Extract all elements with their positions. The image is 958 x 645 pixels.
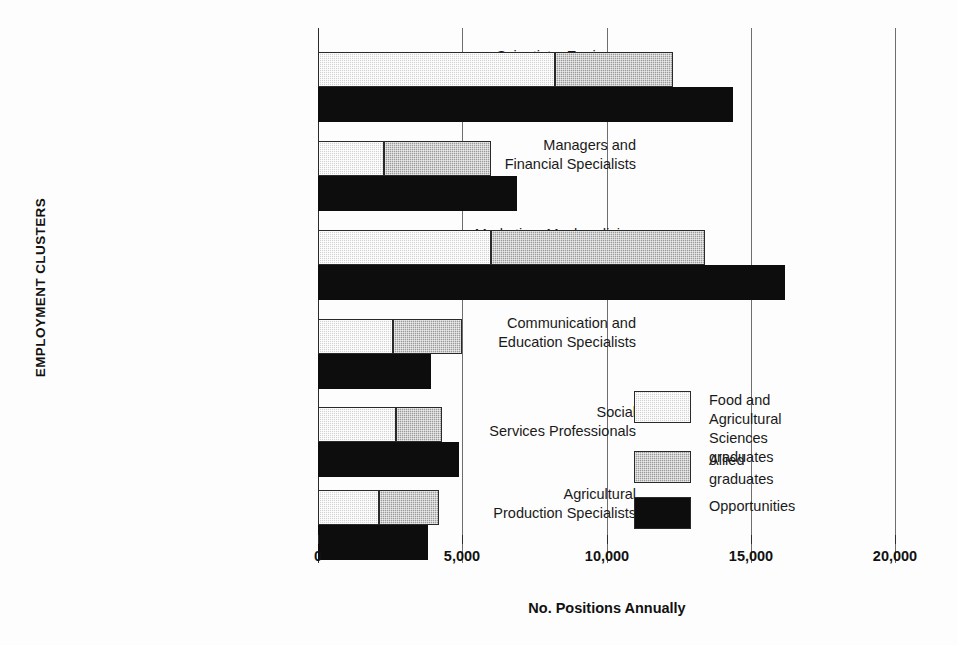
legend-item-opportunities: Opportunities (634, 497, 795, 529)
x-axis-title: No. Positions Annually (318, 600, 896, 616)
xticklabel-15000: 15,000 (706, 548, 796, 564)
legend-swatch-allied-icon (634, 451, 691, 483)
bar-opportunities (318, 176, 517, 211)
y-axis-title: EMPLOYMENT CLUSTERS (33, 168, 48, 408)
bar-segment-allied (491, 230, 704, 265)
xtick-15000 (751, 535, 752, 544)
bar-opportunities (318, 265, 785, 300)
stacked-graduates-bar (318, 52, 673, 87)
xticklabel-5000: 5,000 (417, 548, 507, 564)
bar-segment-food-sciences (318, 141, 384, 176)
stacked-graduates-bar (318, 407, 442, 442)
xticklabel-20000: 20,000 (850, 548, 940, 564)
bar-opportunities (318, 87, 733, 122)
bar-opportunities (318, 354, 431, 389)
xtick-10000 (607, 535, 608, 544)
stacked-graduates-bar (318, 230, 705, 265)
bar-segment-food-sciences (318, 490, 379, 525)
xtick-5000 (462, 535, 463, 544)
chart-page: EMPLOYMENT CLUSTERS Scientists, Engineer… (0, 0, 958, 645)
bar-segment-food-sciences (318, 319, 393, 354)
bar-segment-allied (393, 319, 462, 354)
bar-segment-food-sciences (318, 52, 555, 87)
bar-segment-allied (396, 407, 442, 442)
stacked-graduates-bar (318, 319, 462, 354)
gridline-20000 (895, 28, 896, 563)
bar-segment-food-sciences (318, 230, 491, 265)
stacked-graduates-bar (318, 490, 439, 525)
legend-label-opportunities: Opportunities (709, 497, 795, 516)
bar-opportunities (318, 442, 459, 477)
stacked-graduates-bar (318, 141, 491, 176)
legend-swatch-food-icon (634, 391, 691, 423)
xticklabel-10000: 10,000 (562, 548, 652, 564)
legend-label-allied: Allied graduates (709, 451, 774, 489)
xtick-20000 (895, 535, 896, 544)
legend-swatch-opportunities-icon (634, 497, 691, 529)
bar-segment-allied (379, 490, 440, 525)
legend-item-allied: Allied graduates (634, 451, 774, 489)
xticklabel-0: 0 (273, 548, 363, 564)
bar-segment-food-sciences (318, 407, 396, 442)
xtick-0 (318, 535, 319, 544)
bar-segment-allied (555, 52, 673, 87)
bar-segment-allied (384, 141, 491, 176)
